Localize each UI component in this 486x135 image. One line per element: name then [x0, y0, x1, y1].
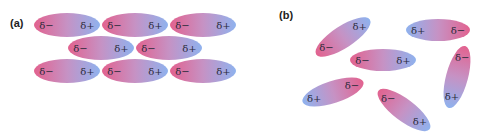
partial-positive-label: δ+ — [148, 20, 162, 31]
partial-negative-label: δ− — [107, 66, 121, 77]
partial-negative-label: δ− — [73, 43, 87, 54]
dipole-molecule: δ−δ+ — [350, 49, 416, 71]
partial-negative-label: δ− — [141, 43, 155, 54]
partial-positive-label: δ+ — [413, 116, 427, 127]
dipole-molecule: δ−δ+ — [34, 59, 100, 83]
partial-positive-label: δ+ — [148, 66, 162, 77]
partial-negative-label: δ− — [319, 42, 333, 53]
partial-positive-label: δ+ — [80, 20, 94, 31]
dipole-molecule: δ−δ+ — [299, 72, 367, 113]
panel-a-ordered-dipoles: δ−δ+δ−δ+δ−δ+δ−δ+δ−δ+δ−δ+δ−δ+δ−δ+ — [34, 13, 236, 83]
dipole-molecule: δ−δ+ — [438, 43, 476, 111]
dipole-diagram: (a) (b) δ−δ+δ−δ+δ−δ+δ−δ+δ−δ+δ−δ+δ−δ+δ−δ+… — [0, 0, 486, 135]
partial-positive-label: δ+ — [216, 66, 230, 77]
partial-negative-label: δ− — [345, 80, 359, 91]
partial-positive-label: δ+ — [411, 25, 425, 36]
partial-negative-label: δ− — [39, 20, 53, 31]
partial-negative-label: δ− — [39, 66, 53, 77]
dipole-molecule: δ−δ+ — [170, 59, 236, 83]
partial-positive-label: δ+ — [396, 55, 410, 66]
partial-negative-label: δ− — [175, 66, 189, 77]
partial-negative-label: δ− — [455, 52, 469, 63]
partial-negative-label: δ− — [355, 55, 369, 66]
partial-positive-label: δ+ — [182, 43, 196, 54]
dipole-molecule: δ−δ+ — [34, 13, 100, 37]
partial-negative-label: δ− — [451, 25, 465, 36]
dipole-molecule: δ−δ+ — [372, 82, 436, 135]
partial-negative-label: δ− — [107, 20, 121, 31]
dipole-molecule: δ−δ+ — [68, 36, 134, 60]
partial-positive-label: δ+ — [352, 21, 366, 32]
partial-positive-label: δ+ — [445, 91, 459, 102]
partial-positive-label: δ+ — [80, 66, 94, 77]
partial-positive-label: δ+ — [114, 43, 128, 54]
panel-a-label: (a) — [10, 17, 24, 29]
dipole-molecule: δ−δ+ — [102, 13, 168, 37]
partial-negative-label: δ− — [381, 93, 395, 104]
dipole-molecule: δ−δ+ — [406, 19, 470, 41]
dipole-molecule: δ−δ+ — [170, 13, 236, 37]
partial-positive-label: δ+ — [307, 93, 321, 104]
dipole-molecule: δ−δ+ — [136, 36, 202, 60]
panel-b-random-dipoles: δ−δ+δ−δ+δ−δ+δ−δ+δ−δ+δ−δ+ — [299, 10, 476, 135]
partial-positive-label: δ+ — [216, 20, 230, 31]
dipole-molecule: δ−δ+ — [102, 59, 168, 83]
partial-negative-label: δ− — [175, 20, 189, 31]
panel-b-label: (b) — [279, 9, 293, 21]
